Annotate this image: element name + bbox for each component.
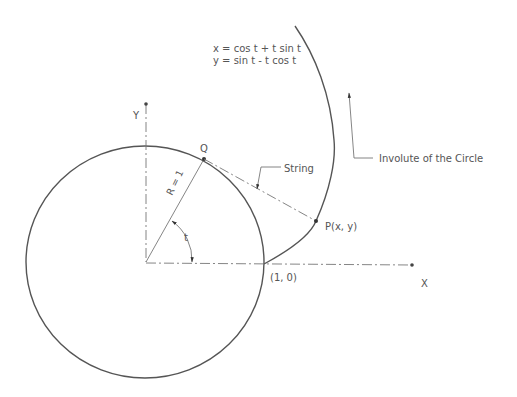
y-axis-label: Y [132,110,140,121]
involute-diagram: Y X R = 1 Q P(x, y) (1, 0) t String Invo… [0,0,517,397]
point-p-dot [314,219,318,223]
y-axis-end-dot [144,102,148,106]
x-axis-line [146,263,412,265]
radius-label: R = 1 [164,168,186,197]
angle-arc [172,221,192,262]
point-p-label: P(x, y) [325,221,357,232]
equation-y: y = sin t - t cos t [213,55,296,66]
x-axis-label: X [421,278,428,289]
x-axis-end-dot [410,263,414,267]
unit-circle [26,146,264,378]
equation-x: x = cos t + t sin t [213,43,301,54]
involute-label: Involute of the Circle [379,153,483,164]
involute-leader [349,93,373,158]
angle-label: t [184,232,188,243]
string-label: String [284,163,314,174]
start-point-label: (1, 0) [270,272,297,283]
point-q-label: Q [200,143,208,154]
string-leader [257,167,281,189]
